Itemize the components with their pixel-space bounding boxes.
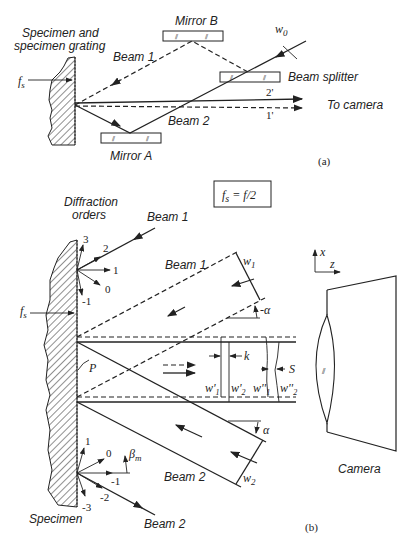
beta-label: βm — [128, 447, 142, 463]
order-lower-minus3: -3 — [82, 501, 92, 513]
order-1: 1 — [113, 264, 119, 276]
beam2-mid-label: Beam 2 — [164, 470, 206, 484]
upper-diffraction-orders: 3 2 1 0 -1 — [77, 233, 119, 307]
lower-diffraction-orders: 1 0 -1 -2 -3 — [77, 435, 120, 513]
w2-prime-label: w'2 — [231, 381, 246, 397]
p-leader — [78, 360, 89, 370]
alpha-bottom-arrow — [256, 422, 258, 433]
specimen-block-b — [44, 240, 77, 507]
ray-1prime — [75, 106, 302, 108]
panel-b: Diffraction orders 3 2 1 0 -1 Beam 1 fs — [20, 195, 396, 534]
beam1-label-a: Beam 1 — [113, 50, 154, 64]
alpha-bottom-label: α — [263, 423, 270, 437]
axis-indicator: x z — [315, 245, 340, 272]
diffraction-orders-line1: Diffraction — [64, 195, 118, 209]
panel-a: Specimen and specimen grating fs ⫽ ⫽ Mir… — [14, 14, 384, 168]
specimen-label-line1: Specimen and — [22, 26, 99, 40]
beam2-label-a: Beam 2 — [168, 114, 210, 128]
p-label: P — [88, 361, 97, 375]
beam1-arrow-a — [112, 80, 120, 85]
beam2-arrow-in-a — [276, 53, 284, 57]
diffraction-diagram: Specimen and specimen grating fs ⫽ ⫽ Mir… — [0, 0, 410, 547]
mirror-b-label: Mirror B — [175, 14, 218, 28]
specimen-block-a — [48, 57, 75, 145]
order-2: 2 — [103, 242, 109, 254]
ray-1prime-label: 1' — [266, 109, 274, 121]
beam1-dir-arrow-2 — [168, 307, 185, 316]
s-label: S — [289, 362, 295, 376]
mirror-b — [163, 31, 223, 41]
beam1-incident-arrow — [134, 236, 140, 240]
order-lower-minus1: -1 — [111, 475, 120, 487]
w2-dprime-label: w''2 — [280, 381, 297, 397]
w0-label: w0 — [275, 22, 288, 38]
order-minus1: -1 — [82, 295, 91, 307]
caption-a: (a) — [318, 155, 331, 168]
specimen-label-line2: specimen grating — [14, 39, 106, 53]
mirror-a — [101, 133, 161, 143]
axis-x-label: x — [319, 245, 326, 259]
w2-dprime-line — [275, 342, 279, 402]
order-lower-minus2: -2 — [100, 491, 109, 503]
equation-box: fs = f/2 — [214, 181, 271, 207]
specimen-label-b: Specimen — [29, 512, 83, 526]
beam2-bottom-label: Beam 2 — [144, 517, 186, 531]
alpha-top-label: -α — [260, 303, 271, 317]
camera-label: Camera — [338, 462, 381, 476]
beam-splitter — [220, 72, 280, 82]
alpha-top-arrow — [255, 306, 257, 318]
beta-arrow — [125, 456, 127, 473]
beam2-incident-arrow — [135, 504, 142, 508]
camera: ⫽ Camera — [316, 276, 396, 476]
beam2-edge-lower — [77, 402, 241, 487]
beam1-top-label: Beam 1 — [147, 210, 188, 224]
order-lower-1: 1 — [85, 435, 91, 447]
lens-glyph: ⫽ — [321, 367, 326, 376]
diffraction-orders-line2: orders — [72, 208, 106, 222]
order-3: 3 — [83, 233, 89, 245]
fs-label-b: fs — [20, 304, 27, 320]
caption-b: (b) — [305, 521, 318, 534]
w2-label: w2 — [243, 471, 256, 487]
mirror-a-label: Mirror A — [110, 149, 152, 163]
fs-label-a: fs — [18, 74, 25, 90]
order-lower-0: 0 — [106, 447, 112, 459]
k-label: k — [244, 349, 250, 363]
beam1-edge-upper — [77, 252, 237, 337]
beam2-dir-arrow-2 — [176, 425, 202, 437]
w1-dprime-label: w''1 — [253, 381, 270, 397]
beam-splitter-label: Beam splitter — [288, 70, 359, 84]
w1-prime-label: w'1 — [205, 381, 220, 397]
order-0: 0 — [105, 283, 111, 295]
w1-label: w1 — [243, 254, 256, 270]
to-camera-label: To camera — [327, 98, 384, 112]
beam2-dir-arrow-1 — [231, 452, 257, 463]
axis-z-label: z — [329, 257, 335, 271]
ray-2prime-label: 2' — [266, 86, 274, 98]
beam1-mid-label: Beam 1 — [165, 258, 206, 272]
